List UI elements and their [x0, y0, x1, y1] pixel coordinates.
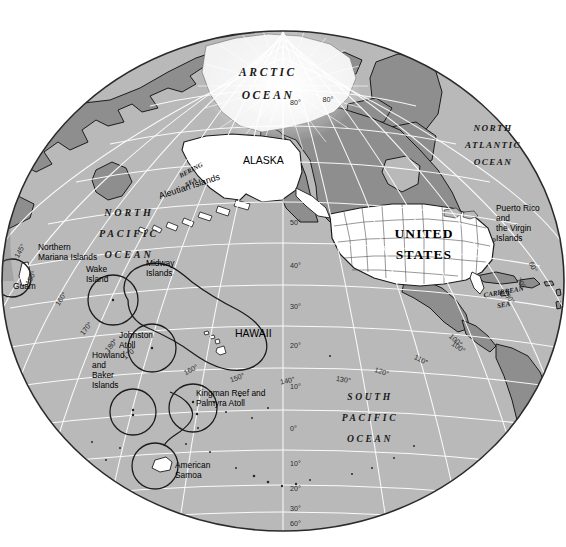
island-label-american-samoa-line-0: American [175, 460, 211, 470]
latitude-label-7: 10° [290, 459, 301, 468]
island-label-northern-mariana-islands-line-0: Northern [38, 242, 71, 252]
globe-map: ARCTICOCEANNORTHATLANTICOCEANNORTHPACIFI… [0, 0, 566, 547]
latitude-label-9: 30° [290, 504, 301, 513]
region-label-hawaii: HAWAII [235, 327, 272, 339]
island-label-kingman-reef-and-palmyra-atoll-line-0: Kingman Reef and [196, 388, 266, 398]
ocean-label-north-atlantic-ocean-line-0: NORTH [472, 123, 512, 133]
longitude-label-17: 80° [323, 95, 334, 104]
island-label-wake-island-line-0: Wake [86, 264, 107, 274]
ocean-label-arctic-ocean-line-0: ARCTIC [238, 66, 297, 78]
ocean-label-north-pacific-ocean-line-0: NORTH [103, 207, 154, 218]
latitude-label-8: 20° [290, 484, 301, 493]
island-label-puerto-rico-and-the-virgin-islands-line-3: Islands [496, 233, 523, 243]
ocean-label-north-atlantic-ocean-line-2: OCEAN [474, 157, 513, 167]
island-label-puerto-rico-and-the-virgin-islands-line-1: and [496, 213, 510, 223]
country-label-united-states-line-0: UNITED [394, 226, 453, 241]
island-label-wake-island: WakeIsland [86, 264, 109, 284]
ocean-label-south-pacific-ocean-line-0: SOUTH [347, 391, 393, 402]
country-label-united-states-line-1: STATES [396, 247, 452, 262]
island-label-puerto-rico-and-the-virgin-islands-line-2: the Virgin [496, 223, 532, 233]
ocean-label-south-pacific-ocean-line-1: PACIFIC [342, 412, 398, 423]
ocean-label-north-pacific-ocean: NORTHPACIFICOCEAN [99, 207, 159, 260]
island-label-puerto-rico-and-the-virgin-islands-line-0: Puerto Rico [496, 203, 540, 213]
ocean-label-south-pacific-ocean: SOUTHPACIFICOCEAN [342, 391, 398, 444]
ocean-label-north-atlantic-ocean-line-1: ATLANTIC [464, 140, 521, 150]
island-label-northern-mariana-islands-line-1: Mariana Islands [38, 252, 97, 262]
region-label-alaska: ALASKA [243, 154, 284, 166]
latitude-label-4: 20° [290, 341, 301, 350]
latitude-label-6: 0° [290, 424, 297, 433]
island-label-midway-islands: MidwayIslands [146, 258, 175, 278]
latitude-label-3: 30° [290, 302, 301, 311]
latitude-label-2: 40° [290, 261, 301, 270]
island-label-johnston-atoll-line-0: Johnston [119, 330, 153, 340]
island-label-american-samoa-line-1: Samoa [175, 470, 202, 480]
island-label-midway-islands-line-0: Midway [146, 258, 175, 268]
latitude-label-0: 80° [290, 98, 301, 107]
ocean-label-arctic-ocean-line-1: OCEAN [242, 89, 295, 101]
island-label-howland-and-baker-islands-line-1: and [92, 360, 106, 370]
island-label-kingman-reef-and-palmyra-atoll-line-1: Palmyra Atoll [196, 398, 245, 408]
map-root: ARCTICOCEANNORTHATLANTICOCEANNORTHPACIFI… [0, 0, 566, 547]
island-label-howland-and-baker-islands-line-2: Baker [92, 370, 114, 380]
latitude-label-1: 50° [290, 218, 301, 227]
island-label-midway-islands-line-1: Islands [146, 268, 173, 278]
latitude-label-10: 60° [290, 519, 301, 528]
ocean-label-north-pacific-ocean-line-1: PACIFIC [99, 228, 159, 239]
island-label-howland-and-baker-islands-line-3: Islands [92, 380, 119, 390]
ocean-label-south-pacific-ocean-line-2: OCEAN [347, 433, 393, 444]
island-label-wake-island-line-1: Island [86, 274, 109, 284]
land-lesser-antilles-1 [556, 289, 561, 296]
